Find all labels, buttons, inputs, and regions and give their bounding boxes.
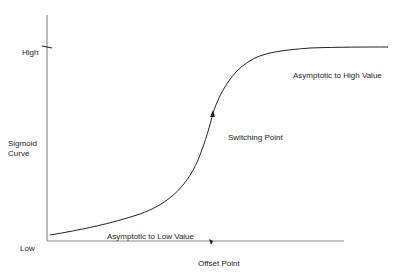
high-label: High <box>22 48 38 58</box>
switching-point-label: Switching Point <box>228 133 283 143</box>
low-asymptote-label: Asymptotic to Low Value <box>107 232 194 242</box>
offset-point-label: Offset Point <box>198 259 240 269</box>
low-label: Low <box>20 244 35 254</box>
offset-point-marker <box>209 239 213 245</box>
sigmoid-diagram: High Sigmoid Curve Low Asymptotic to Hig… <box>0 0 401 277</box>
y-axis-label-line2: Curve <box>8 149 29 159</box>
switching-point-marker <box>210 110 215 117</box>
sigmoid-plot <box>0 0 401 277</box>
high-asymptote-label: Asymptotic to High Value <box>293 71 382 81</box>
y-axis-label-line1: Sigmoid <box>8 139 37 149</box>
